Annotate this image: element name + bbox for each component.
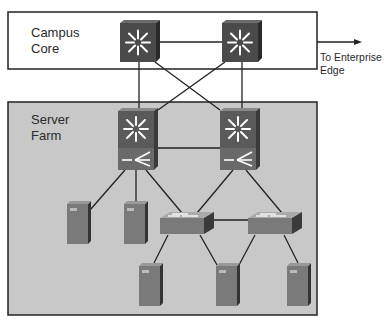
access-switch-2 <box>248 212 302 234</box>
distribution-switch-2 <box>220 108 260 170</box>
server-5 <box>287 263 311 306</box>
core-switch-2 <box>222 20 262 62</box>
campus-core-label-1: Campus <box>31 25 80 40</box>
server-2 <box>124 201 148 244</box>
campus-core-block: Campus Core <box>8 12 317 69</box>
server-3 <box>139 263 163 306</box>
enterprise-edge-label-2: Edge <box>320 64 345 76</box>
server-farm-label-2: Farm <box>31 128 61 143</box>
server-farm-label-1: Server <box>31 112 70 127</box>
enterprise-edge-label-1: To Enterprise <box>320 51 382 63</box>
server-1 <box>67 201 91 244</box>
arrow-right-icon <box>354 39 362 45</box>
server-4 <box>216 263 240 306</box>
network-diagram: Campus Core Server Farm <box>0 0 390 325</box>
access-switch-1 <box>160 212 214 234</box>
distribution-switch-1 <box>118 108 158 170</box>
campus-core-label-2: Core <box>31 41 59 56</box>
core-switch-1 <box>120 20 160 62</box>
